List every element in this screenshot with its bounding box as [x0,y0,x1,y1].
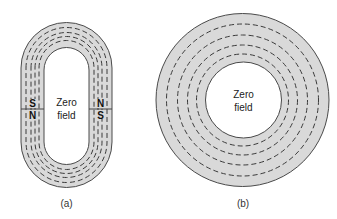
right-magnet-top-pole: N [97,98,104,109]
left-magnet-bottom-pole: N [29,110,36,121]
magnetic-shielding-diagram: S N N S Zero field (a) Zero field (b) [0,0,337,219]
zero-field-label-b-line2: field [234,102,252,113]
figure-a: S N N S Zero field (a) [21,23,112,210]
circular-inner-opening [206,62,282,138]
right-magnet-bottom-pole: S [97,110,104,121]
figure-b: Zero field (b) [156,14,329,210]
zero-field-label-b-line1: Zero [233,89,254,100]
zero-field-label-a-line2: field [57,110,75,121]
caption-b: (b) [237,198,249,209]
left-magnet-top-pole: S [29,98,36,109]
caption-a: (a) [60,198,72,209]
zero-field-label-a-line1: Zero [56,97,77,108]
